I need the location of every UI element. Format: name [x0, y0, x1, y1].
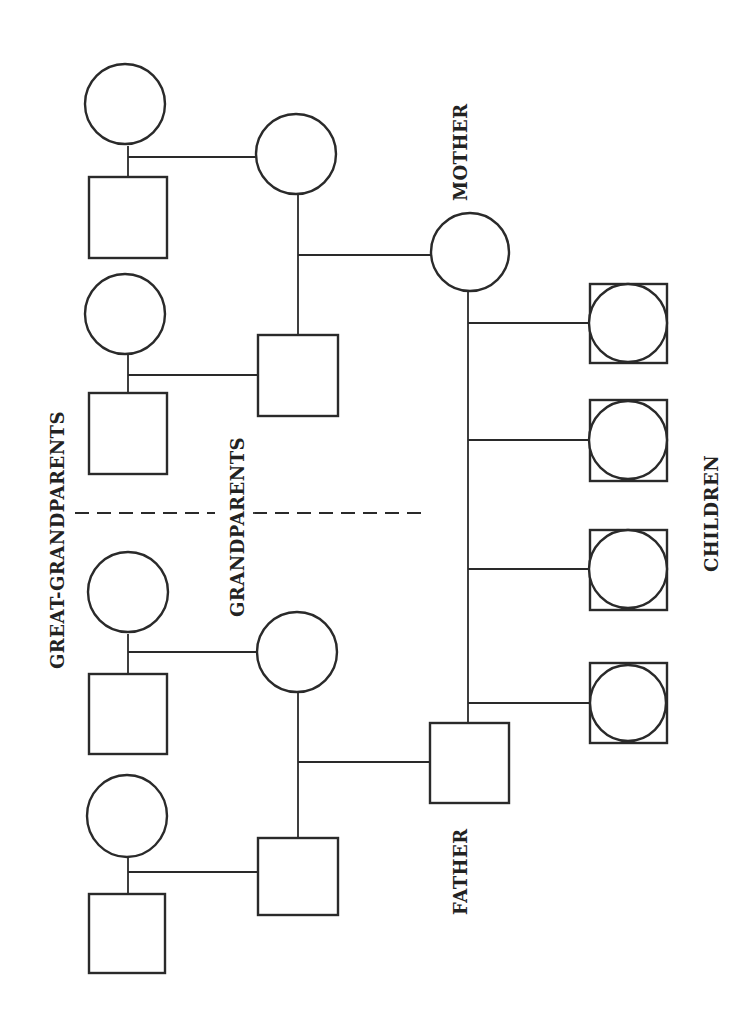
child-1[interactable]: [589, 284, 667, 362]
child-3[interactable]: [589, 530, 667, 608]
grandmother-maternal[interactable]: [256, 114, 336, 194]
grandparents-maternal: [256, 114, 432, 416]
great-grandmother-3[interactable]: [88, 552, 168, 632]
label-great-grandparents: GREAT-GRANDPARENTS: [47, 411, 68, 669]
great-grandparents-couple-4: [87, 775, 258, 973]
mother-symbol[interactable]: [431, 213, 509, 291]
great-grandmother-1[interactable]: [85, 64, 165, 144]
family-tree-chart: GREAT-GRANDPARENTS GRANDPARENTS MOTHER F…: [0, 0, 739, 1025]
great-grandparents-couple-1: [85, 64, 258, 258]
grandmother-paternal[interactable]: [257, 612, 337, 692]
parents: [430, 213, 509, 803]
great-grandfather-3[interactable]: [89, 674, 167, 754]
label-father: FATHER: [450, 828, 471, 915]
great-grandfather-4[interactable]: [89, 894, 165, 973]
label-children: CHILDREN: [701, 455, 722, 572]
great-grandmother-2[interactable]: [85, 274, 165, 354]
grandparents-paternal: [257, 612, 430, 915]
child-4[interactable]: [590, 665, 666, 741]
grandfather-maternal[interactable]: [258, 335, 338, 416]
great-grandmother-4[interactable]: [87, 775, 167, 857]
great-grandfather-1[interactable]: [89, 177, 167, 258]
label-grandparents: GRANDPARENTS: [227, 437, 248, 617]
child-2[interactable]: [589, 401, 667, 479]
great-grandfather-2[interactable]: [89, 393, 167, 474]
grandfather-paternal[interactable]: [258, 838, 338, 915]
father-symbol[interactable]: [430, 723, 509, 803]
children: [468, 284, 667, 743]
label-mother: MOTHER: [450, 103, 471, 201]
